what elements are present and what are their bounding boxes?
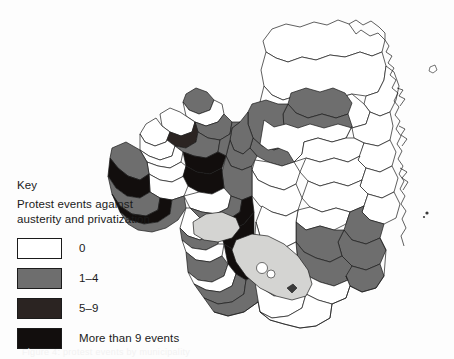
legend-item-5-9[interactable]: 5–9 [17,293,217,323]
legend-title: Key [17,178,217,192]
legend-swatch-1-4 [17,268,62,289]
legend-label-more-than-9: More than 9 events [79,332,179,344]
map-legend: Key Protest events against austerity and… [17,178,217,353]
legend-swatch-5-9 [17,298,62,319]
figure-caption-cropped: Figure 4: protest events by municipality [22,347,190,357]
legend-item-0[interactable]: 0 [17,233,217,263]
legend-swatch-more-than-9 [17,328,62,349]
map-region[interactable] [302,180,368,212]
legend-subtitle: Protest events against austerity and pri… [17,197,177,226]
corn-island [423,65,437,218]
legend-label-0: 0 [79,242,86,254]
legend-item-1-4[interactable]: 1–4 [17,263,217,293]
map-region[interactable] [294,138,364,162]
legend-label-5-9: 5–9 [79,302,99,314]
legend-label-1-4: 1–4 [79,272,99,284]
ometepe-island-north [257,263,268,274]
figure-page: Key Protest events against austerity and… [0,0,454,359]
ometepe-island-south [267,270,275,278]
legend-swatch-0 [17,238,62,259]
